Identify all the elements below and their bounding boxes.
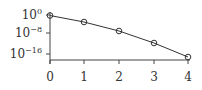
y-tick-label-1: 10−8 bbox=[15, 25, 42, 40]
x-ticks bbox=[50, 60, 188, 64]
x-tick-label-4: 4 bbox=[184, 70, 192, 84]
x-tick-label-2: 2 bbox=[115, 70, 123, 84]
y-tick-label-2: 10−16 bbox=[10, 46, 42, 61]
series-markers bbox=[47, 13, 191, 60]
x-tick-label-0: 0 bbox=[46, 70, 54, 84]
y-tick-label-0: 100 bbox=[22, 7, 42, 22]
x-tick-label-3: 3 bbox=[150, 70, 158, 84]
series-line bbox=[50, 16, 188, 58]
y-ticks bbox=[46, 15, 50, 54]
x-tick-label-1: 1 bbox=[80, 70, 88, 84]
chart: 100 10−8 10−16 0 1 2 3 4 bbox=[0, 0, 202, 90]
